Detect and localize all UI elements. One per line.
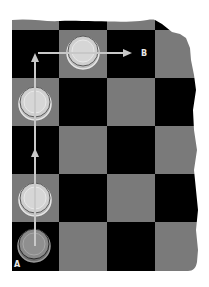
square-r0-c0	[12, 15, 59, 30]
square-r4-c2	[107, 174, 155, 222]
square-r0-c3	[155, 15, 205, 30]
square-r0-c2	[107, 15, 155, 30]
square-r0-c1	[59, 15, 107, 30]
square-r3-c3	[155, 126, 205, 174]
square-r5-c3	[155, 222, 205, 272]
square-r5-c1	[59, 222, 107, 272]
square-r3-c2	[107, 126, 155, 174]
square-r1-c3	[155, 30, 205, 78]
square-r2-c3	[155, 78, 205, 126]
square-r2-c2	[107, 78, 155, 126]
square-r4-c3	[155, 174, 205, 222]
square-r3-c1	[59, 126, 107, 174]
square-r4-c1	[59, 174, 107, 222]
square-r5-c2	[107, 222, 155, 272]
label-a: A	[14, 260, 21, 269]
label-b: B	[141, 49, 147, 58]
square-r2-c1	[59, 78, 107, 126]
checkerboard-diagram: A B	[0, 0, 209, 287]
